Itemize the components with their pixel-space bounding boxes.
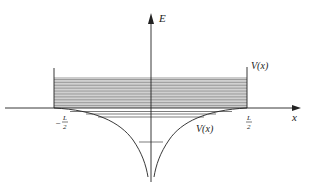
svg-text:2: 2 [247, 123, 251, 131]
left-bound-label: − L 2 [55, 114, 68, 131]
svg-text:−: − [55, 118, 61, 128]
potential-label-upper: V(x) [251, 60, 269, 72]
x-axis-label: x [291, 111, 297, 123]
potential-label-lower: V(x) [196, 123, 214, 135]
potential-curve-left [54, 108, 148, 177]
right-bound-label: L 2 [246, 114, 252, 131]
potential-curve-right [154, 108, 247, 177]
svg-text:L: L [62, 114, 67, 122]
y-axis-arrow-icon [148, 13, 154, 24]
svg-text:L: L [246, 114, 251, 122]
energy-level-diagram: E x V(x) V(x) − L 2 L 2 [0, 0, 311, 187]
energy-band [54, 78, 247, 107]
svg-text:2: 2 [63, 123, 67, 131]
y-axis-label: E [158, 12, 166, 24]
